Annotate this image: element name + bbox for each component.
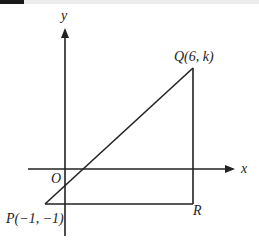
point-P-label: P(−1, −1) [5,211,64,227]
segment-PQ [45,68,193,204]
coordinate-diagram: y x O R Q(6, k) P(−1, −1) [0,0,259,245]
origin-label: O [51,171,61,186]
y-axis-label: y [59,8,68,23]
point-R-label: R [192,203,202,218]
x-axis-label: x [240,161,248,176]
point-Q-label: Q(6, k) [174,49,214,65]
